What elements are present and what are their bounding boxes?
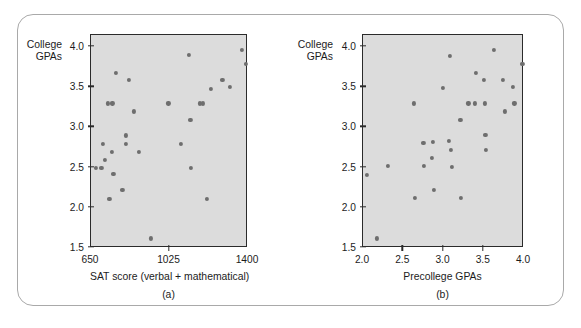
scatter-point [430, 156, 434, 160]
panel-caption-b: (b) [362, 289, 523, 300]
scatter-point [365, 173, 369, 177]
scatter-point [412, 101, 416, 105]
scatter-point [441, 86, 445, 90]
x-tick-label: 650 [70, 254, 110, 265]
y-axis-label-b-line2: GPAs [281, 51, 333, 63]
x-tick-label: 3.0 [423, 254, 463, 265]
x-tick-label: 1025 [149, 254, 189, 265]
scatter-point [149, 236, 153, 240]
scatter-point [432, 188, 436, 192]
x-tick-label: 1400 [227, 254, 267, 265]
x-tick-mark [402, 245, 403, 251]
x-tick-mark [168, 245, 169, 251]
scatter-point [204, 197, 208, 201]
y-tick-label: 4.0 [62, 41, 84, 52]
y-tick-label: 3.0 [62, 121, 84, 132]
scatter-point [458, 118, 462, 122]
scatter-point [484, 148, 488, 152]
scatter-point [501, 78, 505, 82]
panel-caption-a: (a) [90, 289, 247, 300]
scatter-point [473, 101, 477, 105]
scatter-point [449, 148, 453, 152]
x-axis-title-b: Precollege GPAs [362, 271, 523, 282]
scatter-point [386, 164, 390, 168]
scatter-point [447, 139, 451, 143]
y-axis-label-a-line2: GPAs [10, 51, 62, 63]
scatter-point [412, 196, 416, 200]
scatter-point [123, 133, 127, 137]
scatter-point [120, 188, 124, 192]
scatter-point [459, 196, 463, 200]
scatter-point [187, 53, 191, 57]
scatter-point [179, 141, 183, 145]
x-tick-mark [442, 245, 443, 251]
scatter-point [109, 149, 113, 153]
scatter-point [482, 78, 486, 82]
scatter-point [227, 85, 231, 89]
y-tick-mark [360, 166, 366, 167]
scatter-point [431, 140, 435, 144]
scatter-point [132, 109, 136, 113]
scatter-point [448, 54, 452, 58]
scatter-point [111, 172, 115, 176]
y-tick-label: 3.5 [334, 81, 356, 92]
y-tick-mark [88, 86, 94, 87]
y-axis-label-b: College GPAs [281, 39, 333, 63]
scatter-point [100, 141, 104, 145]
scatter-point [127, 78, 131, 82]
y-tick-label: 4.0 [334, 41, 356, 52]
figure-frame: College GPAs SAT score (verbal + mathema… [17, 14, 564, 306]
y-tick-mark [360, 206, 366, 207]
x-axis-title-a: SAT score (verbal + mathematical) [90, 271, 247, 282]
scatter-point [166, 101, 170, 105]
chart-panel-a: College GPAs SAT score (verbal + mathema… [18, 15, 291, 307]
y-tick-mark [88, 206, 94, 207]
scatter-point [483, 133, 487, 137]
scatter-point [188, 118, 192, 122]
x-tick-label: 3.5 [463, 254, 503, 265]
y-axis-label-b-line1: College [281, 39, 333, 51]
scatter-point [189, 166, 193, 170]
plot-area-b [362, 34, 523, 247]
x-tick-label: 2.0 [342, 254, 382, 265]
scatter-point [107, 197, 111, 201]
y-tick-label: 1.5 [334, 242, 356, 253]
scatter-point [512, 101, 516, 105]
scatter-point [114, 71, 118, 75]
scatter-point [106, 101, 110, 105]
x-tick-label: 4.0 [503, 254, 543, 265]
y-tick-mark [88, 45, 94, 46]
scatter-point [511, 85, 515, 89]
scatter-point [474, 71, 478, 75]
y-tick-label: 2.5 [62, 161, 84, 172]
scatter-point [421, 141, 425, 145]
y-tick-label: 1.5 [62, 242, 84, 253]
y-tick-label: 2.0 [62, 201, 84, 212]
x-tick-mark [482, 245, 483, 251]
y-tick-mark [88, 246, 94, 247]
y-tick-mark [88, 126, 94, 127]
scatter-point [103, 157, 107, 161]
scatter-point [201, 101, 205, 105]
y-tick-mark [360, 246, 366, 247]
x-tick-label: 2.5 [382, 254, 422, 265]
scatter-point [99, 166, 103, 170]
y-tick-label: 2.5 [334, 161, 356, 172]
scatter-point [422, 164, 426, 168]
scatter-point [209, 87, 213, 91]
y-axis-label-a-line1: College [10, 39, 62, 51]
scatter-point [466, 101, 470, 105]
scatter-point [449, 165, 453, 169]
scatter-point [520, 62, 524, 66]
scatter-point [220, 78, 224, 82]
y-tick-mark [88, 166, 94, 167]
y-tick-label: 3.5 [62, 81, 84, 92]
y-tick-mark [360, 45, 366, 46]
y-tick-label: 3.0 [334, 121, 356, 132]
scatter-point [137, 149, 141, 153]
scatter-point [244, 62, 248, 66]
scatter-point [375, 236, 379, 240]
scatter-point [503, 109, 507, 113]
scatter-point [124, 141, 128, 145]
scatter-point [240, 48, 244, 52]
